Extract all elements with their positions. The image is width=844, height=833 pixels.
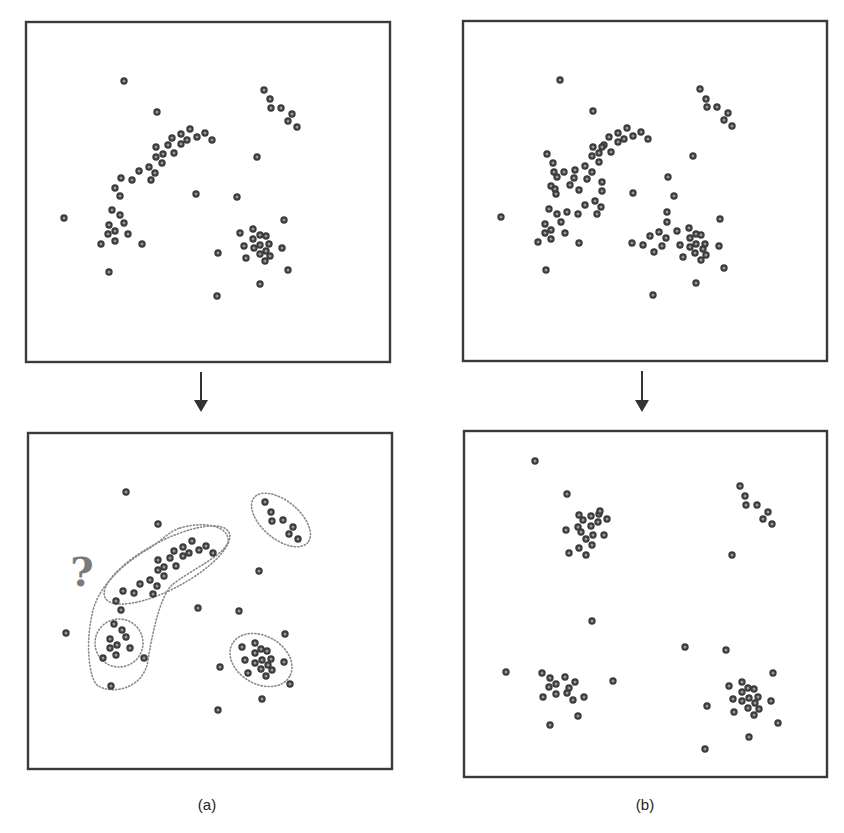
data-point <box>589 169 594 174</box>
data-point <box>112 185 117 190</box>
data-point <box>202 130 207 135</box>
data-point <box>745 705 750 710</box>
data-point <box>286 531 291 536</box>
data-point <box>592 198 597 203</box>
data-point <box>561 169 566 174</box>
data-point <box>589 618 594 623</box>
data-point <box>544 151 549 156</box>
data-point <box>742 493 747 498</box>
data-point <box>698 257 703 262</box>
data-point <box>553 691 558 696</box>
data-point <box>268 105 273 110</box>
data-point <box>599 179 604 184</box>
data-point <box>671 193 676 198</box>
data-point <box>113 652 118 657</box>
data-point <box>597 508 602 513</box>
data-point <box>702 746 707 751</box>
data-point <box>599 144 604 149</box>
data-point <box>264 648 269 653</box>
data-point <box>754 502 759 507</box>
data-point <box>287 681 292 686</box>
data-point <box>651 249 656 254</box>
data-point <box>215 250 220 255</box>
data-point <box>123 634 128 639</box>
data-point <box>258 666 263 671</box>
data-point <box>268 656 273 661</box>
data-point <box>693 280 698 285</box>
data-point <box>680 254 685 259</box>
data-point <box>215 707 220 712</box>
data-point <box>640 242 645 247</box>
data-point <box>113 598 118 603</box>
data-point <box>236 608 241 613</box>
data-point <box>615 139 620 144</box>
data-point <box>125 231 130 236</box>
data-point <box>743 502 748 507</box>
data-point <box>562 230 567 235</box>
data-point <box>118 175 123 180</box>
data-point <box>129 177 134 182</box>
data-point <box>178 141 183 146</box>
data-point <box>582 202 587 207</box>
data-point <box>692 250 697 255</box>
data-point <box>630 133 635 138</box>
data-point <box>266 241 271 246</box>
data-point <box>570 697 575 702</box>
question-mark-annotation: ? <box>70 548 93 595</box>
data-point <box>241 243 246 248</box>
data-point <box>739 679 744 684</box>
data-point <box>237 230 242 235</box>
data-point <box>252 640 257 645</box>
data-point <box>608 149 613 154</box>
panel-a-after <box>28 433 392 769</box>
data-point <box>752 700 757 705</box>
data-point <box>279 245 284 250</box>
data-point <box>700 246 705 251</box>
data-point <box>588 513 593 518</box>
data-point <box>765 509 770 514</box>
data-point <box>717 216 722 221</box>
data-point <box>542 230 547 235</box>
data-point <box>576 240 581 245</box>
data-point <box>121 220 126 225</box>
data-point <box>107 645 112 650</box>
data-point <box>243 255 248 260</box>
data-point <box>729 552 734 557</box>
data-point <box>737 483 742 488</box>
panel-a-before <box>26 22 390 362</box>
data-point <box>590 108 595 113</box>
data-point <box>535 239 540 244</box>
data-point <box>259 696 264 701</box>
data-point <box>242 657 247 662</box>
data-point <box>584 176 589 181</box>
data-point <box>160 151 165 156</box>
data-point <box>254 154 259 159</box>
data-point <box>194 134 199 139</box>
data-point <box>171 150 176 155</box>
data-point <box>575 211 580 216</box>
data-point <box>546 684 551 689</box>
data-point <box>139 241 144 246</box>
data-point <box>731 709 736 714</box>
data-point <box>697 86 702 91</box>
data-point <box>624 125 629 130</box>
data-point <box>532 458 537 463</box>
data-point <box>290 524 295 529</box>
data-point <box>251 245 256 250</box>
data-point <box>596 159 601 164</box>
data-point <box>567 182 572 187</box>
data-point <box>562 674 567 679</box>
data-point <box>119 627 124 632</box>
data-point <box>137 581 142 586</box>
data-point <box>107 636 112 641</box>
data-point <box>263 673 268 678</box>
data-point <box>147 577 152 582</box>
data-point <box>118 607 123 612</box>
data-point <box>161 573 166 578</box>
data-point <box>127 645 132 650</box>
data-point <box>665 174 670 179</box>
data-point <box>578 529 583 534</box>
data-point <box>725 110 730 115</box>
data-point <box>153 154 158 159</box>
data-point <box>267 253 272 258</box>
